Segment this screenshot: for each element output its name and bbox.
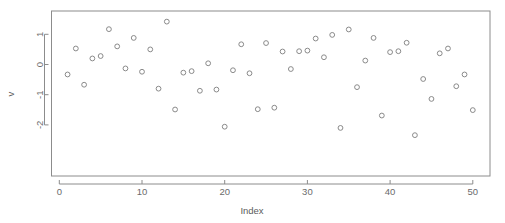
x-axis: 01020304050 — [57, 180, 478, 197]
plot-border — [52, 11, 491, 176]
data-point — [82, 82, 87, 87]
x-tick-label: 20 — [219, 186, 230, 197]
data-point — [272, 105, 277, 110]
data-point — [140, 69, 145, 74]
x-tick-label: 50 — [468, 186, 479, 197]
scatter-plot-figure: 01020304050 10-1-2 Index v — [0, 0, 505, 223]
data-point — [454, 84, 459, 89]
data-point — [231, 68, 236, 73]
data-point — [379, 113, 384, 118]
data-point — [156, 86, 161, 91]
data-point — [371, 36, 376, 41]
data-point — [462, 72, 467, 77]
plot-frame — [52, 11, 491, 176]
data-point — [355, 85, 360, 90]
data-point — [388, 50, 393, 55]
data-point — [123, 66, 128, 71]
data-point — [107, 27, 112, 32]
data-point — [470, 108, 475, 113]
y-axis-title: v — [5, 91, 16, 96]
data-point — [239, 42, 244, 47]
y-tick-label: 0 — [34, 62, 45, 67]
data-point — [346, 27, 351, 32]
x-axis-title: Index — [240, 205, 263, 216]
data-point — [148, 47, 153, 52]
data-point — [305, 48, 310, 53]
x-tick-label: 10 — [137, 186, 148, 197]
y-tick-label: -1 — [34, 90, 45, 98]
y-axis: 10-1-2 — [34, 32, 49, 129]
x-tick-label: 0 — [57, 186, 62, 197]
data-point — [322, 55, 327, 60]
data-points-layer — [65, 19, 475, 137]
data-point — [446, 46, 451, 51]
data-point — [115, 44, 120, 49]
data-point — [181, 70, 186, 75]
data-point — [413, 133, 418, 138]
y-tick-label: 1 — [34, 32, 45, 37]
data-point — [396, 49, 401, 54]
data-point — [222, 124, 227, 129]
data-point — [404, 40, 409, 45]
data-point — [429, 97, 434, 102]
data-point — [189, 69, 194, 74]
plot-canvas: 01020304050 10-1-2 Index v — [0, 0, 505, 223]
data-point — [264, 41, 269, 46]
data-point — [131, 36, 136, 41]
data-point — [98, 54, 103, 59]
data-point — [214, 87, 219, 92]
data-point — [421, 77, 426, 82]
data-point — [280, 49, 285, 54]
data-point — [338, 126, 343, 131]
data-point — [65, 72, 70, 77]
data-point — [173, 107, 178, 112]
data-point — [197, 88, 202, 93]
data-point — [330, 33, 335, 38]
data-point — [73, 46, 78, 51]
x-tick-label: 30 — [302, 186, 313, 197]
data-point — [255, 107, 260, 112]
data-point — [437, 51, 442, 56]
data-point — [313, 36, 318, 41]
y-tick-label: -2 — [34, 121, 45, 129]
data-point — [363, 58, 368, 63]
data-point — [288, 67, 293, 72]
data-point — [297, 49, 302, 54]
x-tick-label: 40 — [385, 186, 396, 197]
data-point — [206, 61, 211, 66]
data-point — [247, 71, 252, 76]
data-point — [90, 56, 95, 61]
data-point — [164, 19, 169, 24]
